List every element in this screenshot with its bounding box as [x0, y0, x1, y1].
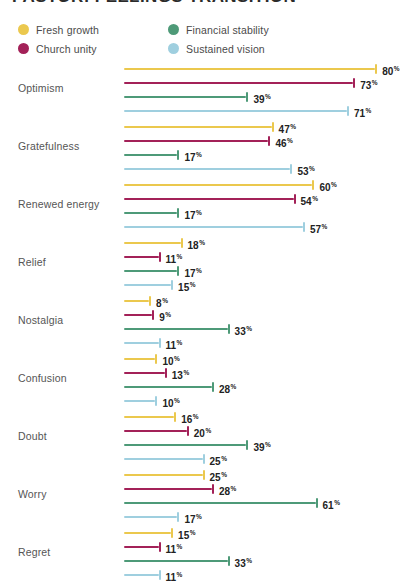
bar-end-tick [228, 324, 230, 334]
bar-end-tick [152, 310, 154, 320]
chart-category-group: Gratefulness47%46%17%53% [0, 120, 416, 178]
chart-bar[interactable]: 11% [124, 336, 416, 350]
bar-line [124, 372, 165, 374]
category-axis-label: Doubt [18, 430, 47, 442]
page-title-text: PASTOR: FEELINGS TRANSITION [12, 0, 296, 7]
bar-end-tick [155, 396, 157, 406]
bar-end-tick [177, 150, 179, 160]
category-axis-label: Worry [18, 488, 47, 500]
chart-bar[interactable]: 39% [124, 90, 416, 104]
chart-bar[interactable]: 18% [124, 236, 416, 250]
bar-line [124, 82, 353, 84]
bar-line [124, 154, 177, 156]
chart-bar[interactable]: 25% [124, 452, 416, 466]
chart-bar[interactable]: 20% [124, 424, 416, 438]
category-axis-label: Optimism [18, 82, 64, 94]
chart-bar[interactable]: 60% [124, 178, 416, 192]
category-axis-label: Regret [18, 546, 50, 558]
chart-bar[interactable]: 33% [124, 322, 416, 336]
chart-bar[interactable]: 11% [124, 540, 416, 554]
bar-end-tick [187, 426, 189, 436]
chart-bar[interactable]: 15% [124, 278, 416, 292]
bar-line [124, 126, 272, 128]
bar-end-tick [159, 570, 161, 580]
chart-bar[interactable]: 17% [124, 264, 416, 278]
chart-bar[interactable]: 17% [124, 206, 416, 220]
bar-line [124, 140, 268, 142]
bar-end-tick [246, 440, 248, 450]
chart-bar[interactable]: 28% [124, 482, 416, 496]
bar-value-label: 25% [210, 452, 227, 469]
legend-item[interactable]: Financial stability [168, 20, 318, 39]
chart-category-group: Renewed energy60%54%17%57% [0, 178, 416, 236]
bar-line [124, 560, 228, 562]
chart-plot-area: Optimism80%73%39%71%Gratefulness47%46%17… [0, 62, 416, 584]
bar-end-tick [375, 64, 377, 74]
bar-end-tick [159, 542, 161, 552]
bar-line [124, 386, 212, 388]
bar-end-tick [203, 454, 205, 464]
bar-end-tick [203, 470, 205, 480]
chart-bar[interactable]: 54% [124, 192, 416, 206]
legend-item[interactable]: Fresh growth [18, 20, 168, 39]
chart-bar[interactable]: 10% [124, 394, 416, 408]
bar-line [124, 400, 155, 402]
chart-category-group: Relief18%11%17%15% [0, 236, 416, 294]
chart-bar[interactable]: 25% [124, 468, 416, 482]
chart-bar[interactable]: 9% [124, 308, 416, 322]
bar-value-label: 10% [162, 394, 179, 411]
bar-end-tick [353, 78, 355, 88]
chart-bar[interactable]: 11% [124, 250, 416, 264]
bar-line [124, 458, 203, 460]
chart-bar[interactable]: 71% [124, 104, 416, 118]
chart-bar[interactable]: 61% [124, 496, 416, 510]
bar-end-tick [268, 136, 270, 146]
chart-bar[interactable]: 53% [124, 162, 416, 176]
chart-bar[interactable]: 46% [124, 134, 416, 148]
chart-bar[interactable]: 28% [124, 380, 416, 394]
chart-bar[interactable]: 10% [124, 352, 416, 366]
bar-end-tick [312, 180, 314, 190]
chart-bar[interactable]: 57% [124, 220, 416, 234]
bar-line [124, 574, 159, 576]
bar-line [124, 430, 187, 432]
page-title: PASTOR: FEELINGS TRANSITION [0, 0, 416, 9]
legend-swatch-icon [168, 24, 179, 35]
bar-line [124, 474, 203, 476]
bar-line [124, 68, 375, 70]
bar-line [124, 532, 171, 534]
chart-bar[interactable]: 39% [124, 438, 416, 452]
legend-item[interactable]: Church unity [18, 39, 168, 58]
bar-line [124, 416, 174, 418]
bar-end-tick [212, 382, 214, 392]
chart-bar[interactable]: 47% [124, 120, 416, 134]
bar-end-tick [171, 280, 173, 290]
bar-end-tick [174, 412, 176, 422]
chart-bar[interactable]: 17% [124, 148, 416, 162]
chart-bar[interactable]: 17% [124, 510, 416, 524]
chart-bar[interactable]: 33% [124, 554, 416, 568]
legend-item-label: Sustained vision [186, 43, 265, 55]
bar-end-tick [159, 252, 161, 262]
chart-bar[interactable]: 15% [124, 526, 416, 540]
chart-category-group: Nostalgia8%9%33%11% [0, 294, 416, 352]
chart-bar[interactable]: 80% [124, 62, 416, 76]
category-axis-label: Renewed energy [18, 198, 100, 210]
bar-line [124, 444, 246, 446]
legend-swatch-icon [168, 43, 179, 54]
chart-bar[interactable]: 16% [124, 410, 416, 424]
chart-bar[interactable]: 73% [124, 76, 416, 90]
bar-line [124, 358, 155, 360]
chart-category-group: Optimism80%73%39%71% [0, 62, 416, 120]
legend-item[interactable]: Sustained vision [168, 39, 318, 58]
bar-end-tick [294, 194, 296, 204]
legend-item-label: Fresh growth [36, 24, 99, 36]
bar-value-label: 11% [166, 336, 183, 353]
chart-bar[interactable]: 13% [124, 366, 416, 380]
category-axis-label: Gratefulness [18, 140, 79, 152]
bar-line [124, 328, 228, 330]
chart-bar[interactable]: 11% [124, 568, 416, 582]
chart-bar[interactable]: 8% [124, 294, 416, 308]
chart-category-group: Regret15%11%33%11% [0, 526, 416, 584]
bar-end-tick [171, 528, 173, 538]
